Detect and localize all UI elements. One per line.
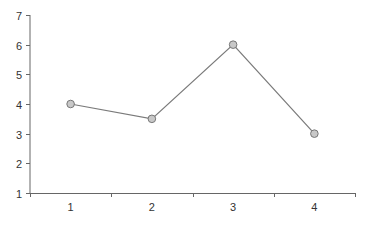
x-tick-label: 2 xyxy=(149,201,155,213)
y-tick-label: 4 xyxy=(16,99,22,111)
data-point-marker xyxy=(311,130,319,138)
series-line xyxy=(71,45,315,134)
y-axis: 1234567 xyxy=(16,10,30,200)
x-tick-label: 3 xyxy=(230,201,236,213)
y-tick-label: 7 xyxy=(16,10,22,22)
y-tick-label: 2 xyxy=(16,158,22,170)
y-tick-label: 3 xyxy=(16,129,22,141)
data-series xyxy=(67,41,318,138)
y-tick-label: 1 xyxy=(16,188,22,200)
x-axis: 1234 xyxy=(30,193,356,213)
chart-svg: 1234567 1234 xyxy=(0,0,373,227)
y-tick-label: 5 xyxy=(16,69,22,81)
y-tick-label: 6 xyxy=(16,40,22,52)
x-tick-label: 1 xyxy=(68,201,74,213)
data-point-marker xyxy=(148,115,156,123)
data-point-marker xyxy=(67,100,75,108)
line-chart: 1234567 1234 xyxy=(0,0,373,227)
x-tick-label: 4 xyxy=(311,201,317,213)
data-point-marker xyxy=(229,41,237,49)
